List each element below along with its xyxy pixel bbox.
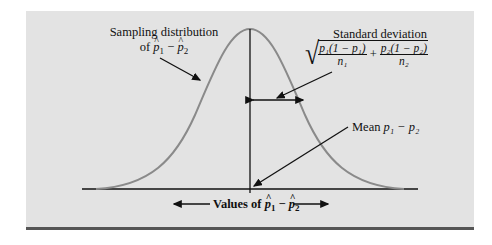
axis-p2-sub: 2 — [295, 203, 300, 213]
axis-p1-hat: p — [265, 198, 271, 211]
sampling-distribution-label: Sampling distribution of p1 − p2 — [104, 26, 224, 58]
std-dev-pointer — [277, 72, 332, 98]
sqrt-body: p₁(1 − p₁) n₁ + p₂(1 − p₂) n₂ — [318, 40, 428, 67]
minus: − — [164, 40, 177, 54]
fraction-2-numerator: p₂(1 − p₂) — [380, 42, 428, 55]
of-text: of — [140, 40, 154, 54]
axis-label: Values of p1 − p2 — [213, 198, 300, 215]
fraction-1-numerator: p₁(1 − p₁) — [318, 42, 366, 55]
standard-deviation-formula: √ p₁(1 − p₁) n₁ + p₂(1 − p₂) n₂ — [305, 40, 428, 67]
p2-hat: p — [177, 41, 183, 54]
axis-minus: − — [275, 197, 288, 211]
fraction-2-denominator: n₂ — [380, 55, 428, 67]
sampling-distribution-line2: of p1 − p2 — [104, 41, 224, 58]
mean-expression: p₁ − p₂ — [384, 120, 420, 134]
mean-pointer — [254, 127, 348, 186]
fraction-1: p₁(1 − p₁) n₁ — [318, 42, 366, 67]
axis-p2-hat: p — [289, 198, 295, 211]
plus-sign: + — [370, 48, 377, 61]
p2-sub: 2 — [184, 46, 189, 56]
p1-hat: p — [153, 41, 159, 54]
fraction-2: p₂(1 − p₂) n₂ — [380, 42, 428, 67]
mean-label: Mean p₁ − p₂ — [352, 121, 419, 134]
sampling-distribution-line1: Sampling distribution — [104, 26, 224, 39]
sqrt-sign: √ — [305, 38, 319, 69]
axis-label-prefix: Values of — [213, 197, 265, 211]
sqrt-expression: √ p₁(1 − p₁) n₁ + p₂(1 − p₂) n₂ — [305, 40, 428, 67]
fraction-1-denominator: n₁ — [318, 55, 366, 67]
sampling-dist-pointer — [160, 58, 200, 80]
mean-prefix: Mean — [352, 120, 384, 134]
